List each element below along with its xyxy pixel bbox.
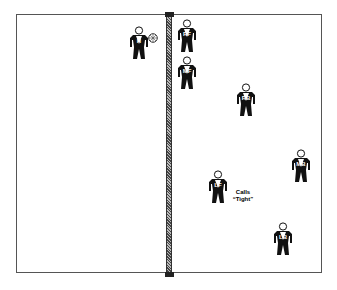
player-label: LB bbox=[272, 234, 294, 240]
player-lb: LB bbox=[272, 222, 294, 256]
player-rb: RB bbox=[235, 83, 257, 117]
player-label: H bbox=[128, 38, 150, 44]
player-mb: MB bbox=[290, 149, 312, 183]
volleyball-icon bbox=[148, 29, 158, 39]
player-label: MB bbox=[290, 161, 312, 167]
annotation-line1: Calls bbox=[230, 189, 256, 196]
net bbox=[166, 14, 172, 274]
player-lf: LF bbox=[207, 170, 229, 204]
player-rf: RF bbox=[176, 19, 198, 53]
net-post-top bbox=[165, 12, 174, 17]
player-label: MF bbox=[176, 68, 198, 74]
net-post-bottom bbox=[165, 272, 174, 277]
player-label: RF bbox=[176, 31, 198, 37]
player-label: LF bbox=[207, 182, 229, 188]
player-h: H bbox=[128, 26, 150, 60]
annotation-line2: “Tight” bbox=[230, 196, 256, 203]
annotation-calls-tight: Calls “Tight” bbox=[230, 189, 256, 203]
player-mf: MF bbox=[176, 56, 198, 90]
player-label: RB bbox=[235, 95, 257, 101]
